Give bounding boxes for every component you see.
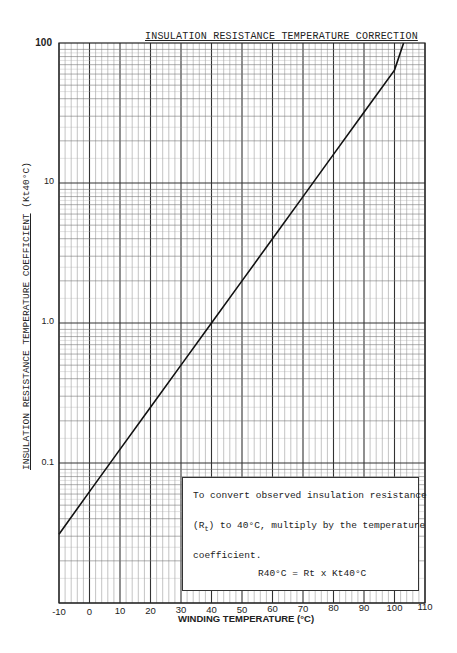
y-tick-0-1: 0.1: [14, 457, 54, 467]
x-tick-label: 110: [410, 601, 440, 612]
y-axis-title: INSULATION RESISTANCE TEMPERATURE COEFFI…: [21, 162, 32, 470]
chart-title: INSULATION RESISTANCE TEMPERATURE CORREC…: [145, 31, 418, 42]
x-tick-label: 80: [319, 602, 349, 613]
note-formula: R40°C = Rt x Kt40°C: [258, 568, 366, 579]
x-tick-label: 100: [380, 602, 410, 613]
y-axis-title-suffix: (Kt40°C): [21, 162, 32, 208]
y-tick-10: 10: [14, 176, 54, 186]
conversion-note: To convert observed insulation resistanc…: [182, 477, 419, 591]
note-line-1: To convert observed insulation resistanc…: [193, 490, 427, 501]
x-tick-label: -10: [44, 606, 74, 617]
x-tick-label: 0: [75, 606, 105, 617]
x-tick-label: 20: [136, 605, 166, 616]
note-line-2: (Rt) to 40°C, multiply by the temperatur…: [193, 520, 425, 533]
x-tick-label: 10: [105, 605, 135, 616]
y-tick-100: 100: [12, 37, 52, 48]
x-tick-label: 90: [349, 602, 379, 613]
y-axis-title-text: INSULATION RESISTANCE TEMPERATURE COEFFI…: [21, 213, 32, 470]
note-line-3: coefficient.: [193, 550, 261, 561]
x-axis-title: WINDING TEMPERATURE (°C): [178, 613, 314, 624]
y-tick-1: 1.0: [14, 316, 54, 326]
